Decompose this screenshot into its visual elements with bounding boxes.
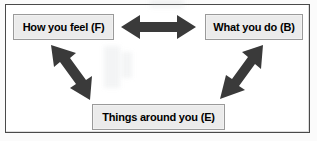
diagram-canvas: How you feel (F) What you do (B) Things … [0, 0, 317, 141]
node-what-you-do[interactable]: What you do (B) [205, 14, 303, 40]
node-what-you-do-label: What you do (B) [213, 21, 294, 33]
node-things-around-you[interactable]: Things around you (E) [92, 104, 225, 130]
node-how-you-feel[interactable]: How you feel (F) [13, 14, 114, 40]
node-how-you-feel-label: How you feel (F) [23, 21, 105, 33]
node-things-around-you-label: Things around you (E) [102, 111, 215, 123]
